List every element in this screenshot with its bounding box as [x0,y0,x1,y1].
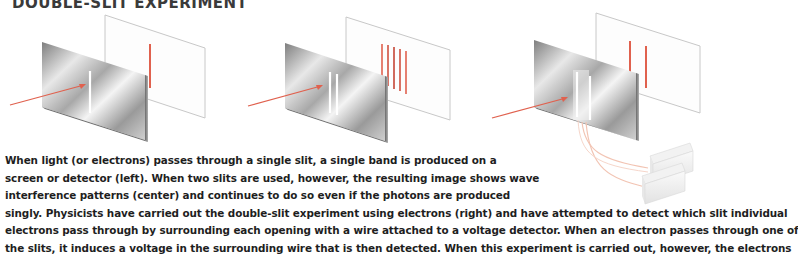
caption-line: When light (or electrons) passes through… [5,152,497,170]
caption-line: screen or detector (left). When two slit… [5,170,539,188]
caption-line: the slits, it induces a voltage in the s… [5,240,791,258]
caption-line: singly. Physicists have carried out the … [5,205,788,223]
panel-single-slit [10,15,205,142]
caption-line: interference patterns (center) and conti… [5,187,510,205]
voltage-detector [642,163,685,204]
panel-double-slit [248,17,450,143]
caption-line: electrons pass through by surrounding ea… [5,222,798,240]
